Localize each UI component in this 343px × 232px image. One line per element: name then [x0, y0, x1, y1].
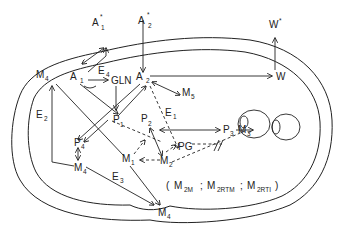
svg-text:E: E — [36, 109, 43, 120]
svg-text:3: 3 — [247, 130, 251, 137]
svg-text:4: 4 — [106, 71, 110, 78]
metabolic-flow-diagram: A1* A2* W* M4 A1 E4 GLN A2 W M5 E2 P1 E1… — [0, 0, 343, 232]
node-P4: P4 — [74, 137, 85, 150]
node-M4-mid: M4 — [74, 162, 87, 175]
svg-text:;: ; — [200, 180, 203, 191]
svg-text:M: M — [158, 207, 166, 218]
svg-text:E: E — [165, 107, 172, 118]
svg-text:*: * — [279, 17, 282, 24]
enzyme-E4: E4 — [98, 65, 110, 78]
node-M1: M1 — [122, 153, 135, 166]
node-M4-top: M4 — [36, 69, 49, 82]
svg-text:2RTI: 2RTI — [257, 186, 271, 193]
svg-text:A: A — [92, 17, 99, 28]
svg-text:P: P — [141, 113, 148, 124]
svg-text:M: M — [238, 124, 246, 135]
node-A1: A1 — [70, 71, 84, 84]
svg-text:2: 2 — [148, 22, 152, 29]
svg-text:1: 1 — [80, 77, 84, 84]
svg-text:4: 4 — [81, 143, 85, 150]
svg-text:A: A — [138, 15, 145, 26]
node-W: W — [276, 71, 286, 82]
node-A2-star: A2* — [138, 11, 152, 29]
svg-text:1: 1 — [101, 24, 105, 31]
node-A1-star: A1* — [92, 13, 105, 31]
enzyme-E2: E2 — [36, 109, 48, 122]
node-P1: P1 — [113, 114, 124, 128]
svg-text:): ) — [275, 180, 278, 191]
svg-text:1: 1 — [173, 113, 177, 120]
svg-text:M: M — [174, 180, 182, 191]
svg-text:M: M — [122, 153, 130, 164]
svg-text:1: 1 — [131, 159, 135, 166]
svg-text:2M: 2M — [184, 186, 193, 193]
svg-text:M: M — [247, 180, 255, 191]
svg-text:E: E — [98, 65, 105, 76]
svg-text:4: 4 — [167, 213, 171, 220]
svg-text:1: 1 — [120, 121, 124, 128]
node-GLN: GLN — [111, 75, 132, 86]
svg-text:*: * — [100, 13, 103, 20]
svg-text:3: 3 — [120, 177, 124, 184]
node-P3: P3 — [223, 124, 234, 137]
svg-text:2: 2 — [148, 120, 152, 127]
svg-text:2: 2 — [169, 161, 173, 168]
solid-edges — [52, 20, 275, 205]
node-PG: PG — [178, 141, 193, 152]
svg-text:W: W — [269, 19, 279, 30]
svg-text:5: 5 — [191, 93, 195, 100]
svg-text:M: M — [182, 87, 190, 98]
svg-text:4: 4 — [83, 168, 87, 175]
svg-text:E: E — [112, 171, 119, 182]
node-M5: M5 — [182, 87, 195, 100]
svg-text:2: 2 — [44, 115, 48, 122]
svg-text:2: 2 — [146, 77, 150, 84]
svg-text:M: M — [160, 155, 168, 166]
enzyme-E1: E1 — [165, 107, 177, 120]
svg-text:M: M — [207, 180, 215, 191]
svg-text:*: * — [147, 11, 150, 18]
node-P2: P2 — [141, 113, 152, 127]
svg-text:2RTM: 2RTM — [217, 186, 235, 193]
svg-text:(: ( — [166, 180, 170, 191]
node-W-star: W* — [269, 17, 282, 30]
svg-text:P: P — [74, 137, 81, 148]
svg-text:M: M — [74, 162, 82, 173]
svg-text:P: P — [223, 124, 230, 135]
svg-text:A: A — [70, 71, 77, 82]
svg-text:;: ; — [240, 180, 243, 191]
node-M2: M2 — [160, 155, 173, 168]
node-A2: A2 — [136, 71, 150, 84]
dashed-edges — [84, 86, 245, 162]
isoform-legend: ( M2M ; M2RTM ; M2RTI ) — [166, 180, 278, 193]
svg-text:A: A — [136, 71, 143, 82]
node-M4-bottom: M4 — [158, 207, 171, 220]
svg-text:4: 4 — [45, 75, 49, 82]
svg-text:P: P — [113, 114, 120, 125]
svg-text:3: 3 — [230, 130, 234, 137]
svg-text:M: M — [36, 69, 44, 80]
